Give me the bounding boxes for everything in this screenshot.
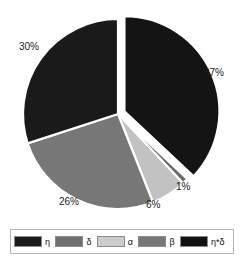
legend-item-eta-delta[interactable]: η*δ: [180, 230, 230, 253]
pie-plot-area: 37% 1% 6% 26% 30%: [0, 0, 244, 222]
pie-label-alpha-percent: 6%: [146, 199, 160, 210]
legend-swatch-eta-delta-icon: [180, 236, 208, 247]
legend-swatch-eta-icon: [14, 236, 42, 247]
pie-svg: [0, 0, 244, 222]
pie-label-delta-percent: 26%: [59, 196, 79, 207]
pie-chart-figure: 37% 1% 6% 26% 30% η δ α β η*δ: [0, 0, 244, 266]
legend-item-alpha[interactable]: α: [97, 230, 139, 253]
legend: η δ α β η*δ: [10, 229, 234, 254]
legend-item-delta[interactable]: δ: [55, 230, 96, 253]
pie-label-eta-percent: 37%: [204, 67, 224, 78]
pie-label-eta-delta-percent: 30%: [19, 41, 39, 52]
legend-label-alpha: α: [128, 237, 133, 247]
legend-swatch-beta-icon: [138, 236, 166, 247]
legend-swatch-delta-icon: [55, 236, 83, 247]
legend-swatch-alpha-icon: [97, 236, 125, 247]
pie-label-beta-percent: 1%: [176, 181, 190, 192]
legend-label-eta-delta: η*δ: [211, 237, 225, 247]
legend-label-beta: β: [169, 237, 174, 247]
legend-label-delta: δ: [86, 237, 91, 247]
legend-item-beta[interactable]: β: [138, 230, 180, 253]
legend-item-eta[interactable]: η: [14, 230, 55, 253]
legend-label-eta: η: [45, 237, 50, 247]
